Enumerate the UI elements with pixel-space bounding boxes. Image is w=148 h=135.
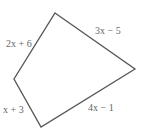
- side-label-top-left: 2x + 6: [6, 38, 32, 49]
- side-label-bottom-right: 4x − 1: [88, 102, 114, 113]
- quadrilateral-diagram: 2x + 6 3x − 5 4x − 1 x + 3: [0, 0, 148, 135]
- side-label-top-right: 3x − 5: [95, 25, 121, 36]
- side-label-bottom-left: x + 3: [3, 104, 24, 115]
